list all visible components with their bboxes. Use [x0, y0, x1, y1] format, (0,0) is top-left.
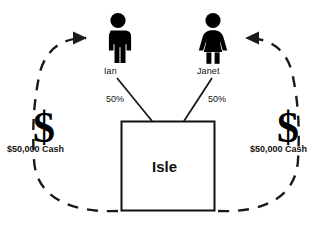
- owner-name-janet: Janet: [197, 66, 220, 76]
- entity-label-isle: Isle: [152, 158, 177, 175]
- ownership-percent-ian: 50%: [106, 94, 124, 104]
- diagram-canvas: Ian Janet 50% 50% $ $ $50,000 Cash $50,0…: [0, 0, 329, 235]
- owner-name-ian: Ian: [104, 66, 117, 76]
- ownership-percent-janet: 50%: [208, 94, 226, 104]
- male-figure-icon: [109, 13, 131, 63]
- female-figure-icon: [199, 13, 227, 64]
- cash-contribution-label-right: $50,000 Cash: [250, 144, 307, 154]
- cash-contribution-label-left: $50,000 Cash: [7, 144, 64, 154]
